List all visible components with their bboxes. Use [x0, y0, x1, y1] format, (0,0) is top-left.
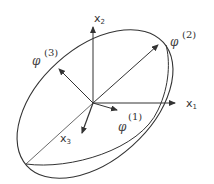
ellipsoid-outline	[0, 1, 201, 184]
principal-vector-3	[59, 69, 93, 103]
phi-2-symbol: φ	[170, 35, 179, 49]
principal-vector-1	[93, 103, 117, 110]
phi-3-symbol: φ	[32, 54, 41, 68]
phi-2-index: (2)	[182, 29, 196, 40]
x3-label: x3	[60, 132, 71, 146]
ellipsoid-diagram: x2 x1 x3 φ (2) φ (3) φ (1)	[0, 0, 214, 184]
phi-3-index: (3)	[44, 47, 58, 58]
x1-label: x1	[186, 97, 197, 111]
x2-label: x2	[94, 12, 105, 26]
phi-1-symbol: φ	[118, 120, 127, 134]
phi-1-index: (1)	[128, 111, 142, 122]
cross-section-curve	[26, 45, 168, 165]
principal-vector-2	[93, 45, 158, 103]
